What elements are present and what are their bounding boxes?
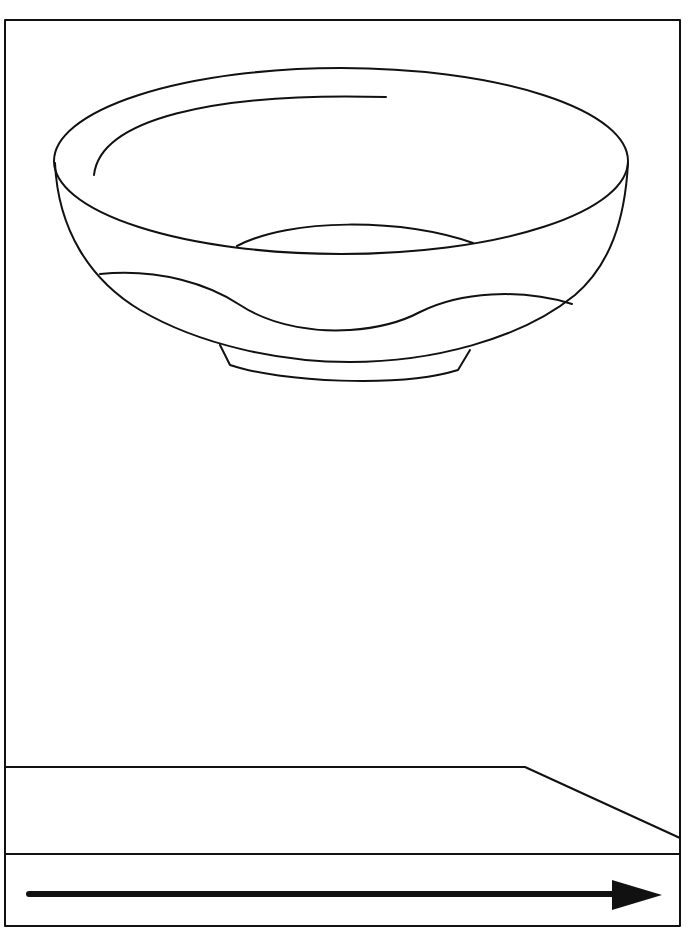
- bowl-body: [55, 163, 628, 362]
- table-edge: [5, 767, 680, 838]
- bowl-diagram: [0, 0, 689, 934]
- bowl-highlight-arc: [94, 96, 386, 175]
- bowl: [54, 68, 628, 381]
- table-surface: [5, 767, 680, 854]
- direction-arrow: [29, 880, 662, 910]
- arrow-head-icon: [612, 880, 662, 910]
- frame: [5, 20, 680, 926]
- bowl-inner-bottom: [237, 225, 473, 246]
- bowl-wave-band: [100, 273, 572, 331]
